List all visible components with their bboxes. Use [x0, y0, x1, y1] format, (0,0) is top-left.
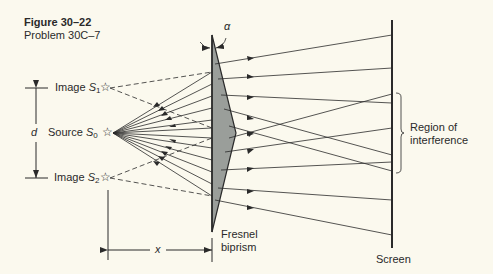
- screen-label: Screen: [376, 253, 411, 266]
- region-label-line1: Region of: [410, 121, 457, 134]
- refracted-ray-arrows: [247, 56, 254, 210]
- alpha-label: α: [224, 20, 230, 33]
- biprism-label-line2: biprism: [221, 241, 256, 254]
- image-s1-label: Image S1: [55, 81, 100, 97]
- image-s2-label: Image S2: [54, 171, 99, 187]
- source-s0-label: Source S0: [48, 126, 98, 142]
- d-label: d: [31, 126, 37, 139]
- image-s2-star-icon: ☆: [100, 171, 111, 184]
- interference-brace: [396, 93, 404, 173]
- incident-rays: [113, 72, 212, 196]
- region-label-line2: interference: [410, 134, 468, 147]
- image-s1-star-icon: ☆: [100, 81, 111, 94]
- biprism-label-line1: Fresnel: [221, 228, 258, 241]
- refracted-rays: [215, 35, 392, 235]
- source-s0-star-icon: ☆: [102, 126, 113, 139]
- x-label: x: [155, 243, 161, 256]
- fresnel-biprism: [212, 35, 236, 232]
